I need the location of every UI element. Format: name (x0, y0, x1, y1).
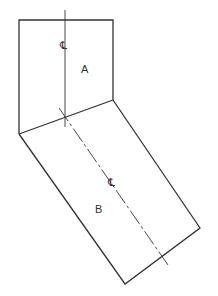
centerline-symbol-a: ℄ (60, 40, 67, 51)
section-b-outline (19, 100, 200, 284)
part-label-b: B (95, 204, 102, 215)
part-label-a: A (81, 64, 88, 75)
elbow-diagram (0, 0, 218, 296)
centerline-symbol-b: ℄ (108, 177, 115, 188)
mitre-joint-line (19, 100, 113, 134)
